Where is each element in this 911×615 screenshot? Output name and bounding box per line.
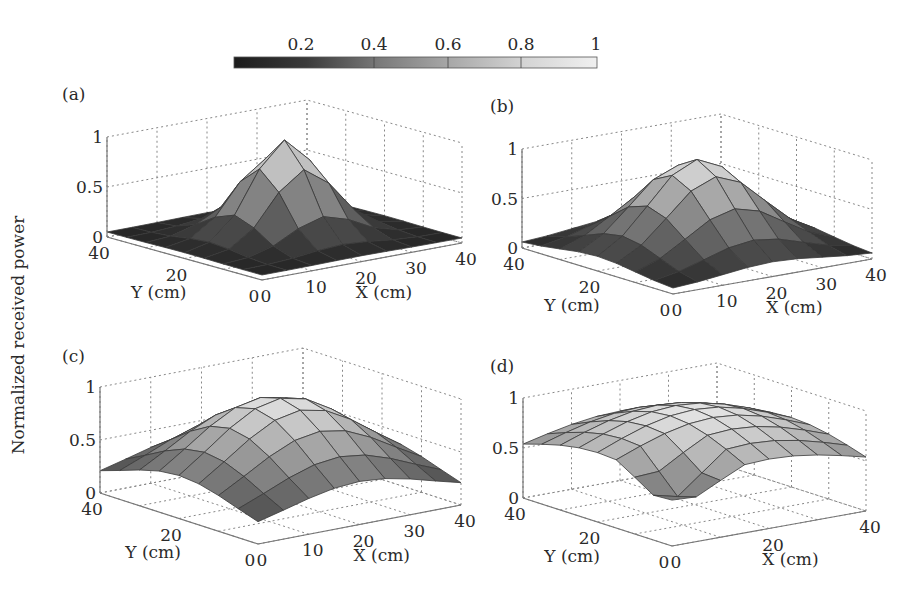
y-tick-label: 40 [88, 243, 110, 263]
z-tick-label: 0.5 [69, 430, 96, 450]
x-axis-label: X (cm) [762, 549, 818, 569]
panel-c: 00.5101020304002040X (cm)Y (cm)(c) [62, 346, 476, 570]
panel-b: 00.5101020304002040X (cm)Y (cm)(b) [490, 96, 887, 320]
y-tick-label: 0 [659, 552, 670, 572]
x-tick-label: 0 [672, 300, 683, 320]
colorbar-tick: 0.8 [507, 34, 534, 54]
panel-label: (d) [490, 356, 514, 376]
x-tick-label: 40 [455, 249, 477, 269]
x-tick-label: 0 [257, 550, 268, 570]
panel-d: 00.510204002040X (cm)Y (cm)(d) [490, 356, 881, 572]
colorbar: 0.2 0.4 0.6 0.8 1 [234, 34, 601, 68]
y-tick-label: 0 [660, 300, 671, 320]
x-axis-label: X (cm) [766, 297, 822, 317]
z-tick-label: 0.5 [492, 438, 519, 458]
colorbar-tick: 0.4 [360, 34, 387, 54]
y-tick-label: 40 [504, 504, 526, 524]
z-tick-label: 0.5 [76, 177, 103, 197]
x-tick-label: 10 [716, 291, 738, 311]
z-tick-label: 0.5 [491, 189, 518, 209]
z-tick-label: 1 [92, 127, 103, 147]
colorbar-tick: 0.2 [287, 34, 314, 54]
y-tick-label: 0 [249, 286, 260, 306]
y-axis-label: Y (cm) [543, 546, 600, 566]
x-tick-label: 30 [403, 521, 425, 541]
surface-mesh [100, 397, 461, 521]
surface-mesh [523, 403, 866, 501]
shared-y-axis-label: Normalized received power [8, 215, 28, 455]
x-tick-label: 40 [859, 517, 881, 537]
z-tick-label: 1 [508, 388, 519, 408]
x-axis-label: X (cm) [354, 545, 410, 565]
panel-label: (b) [490, 96, 514, 116]
y-tick-label: 0 [245, 550, 256, 570]
y-tick-label: 40 [81, 499, 103, 519]
y-axis-label: Y (cm) [543, 295, 600, 315]
y-tick-label: 40 [503, 254, 525, 274]
panels: 00.5101020304002040X (cm)Y (cm)(a)00.510… [62, 84, 887, 572]
y-axis-label: Y (cm) [130, 282, 187, 302]
y-axis-label: Y (cm) [124, 542, 181, 562]
figure: 0.2 0.4 0.6 0.8 1 Normalized received po… [0, 0, 911, 615]
x-tick-label: 30 [815, 274, 837, 294]
x-tick-label: 10 [302, 540, 324, 560]
surface-mesh [107, 140, 462, 275]
x-tick-label: 0 [261, 286, 272, 306]
x-tick-label: 10 [305, 277, 327, 297]
x-tick-label: 30 [405, 258, 427, 278]
colorbar-gradient [234, 57, 597, 68]
z-tick-label: 1 [85, 377, 96, 397]
panel-label: (c) [62, 346, 85, 366]
panel-a: 00.5101020304002040X (cm)Y (cm)(a) [62, 84, 477, 306]
x-axis-label: X (cm) [356, 282, 412, 302]
x-tick-label: 40 [865, 265, 887, 285]
x-tick-label: 40 [454, 511, 476, 531]
panel-label: (a) [62, 84, 85, 104]
colorbar-tick: 0.6 [434, 34, 461, 54]
x-tick-label: 0 [671, 552, 682, 572]
colorbar-tick: 1 [591, 34, 602, 54]
z-tick-label: 1 [507, 139, 518, 159]
